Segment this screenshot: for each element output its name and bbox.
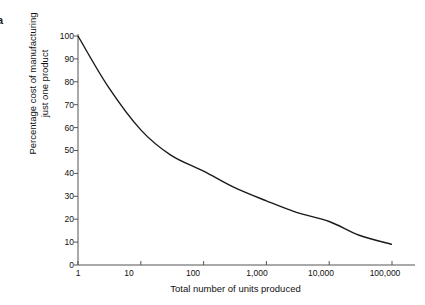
figure-panel: a Percentage cost of manufacturing just … bbox=[0, 0, 425, 305]
experience-curve bbox=[78, 36, 392, 244]
plot-svg bbox=[0, 0, 425, 305]
x-axis-ticks bbox=[78, 261, 392, 265]
y-axis-ticks bbox=[74, 36, 78, 265]
